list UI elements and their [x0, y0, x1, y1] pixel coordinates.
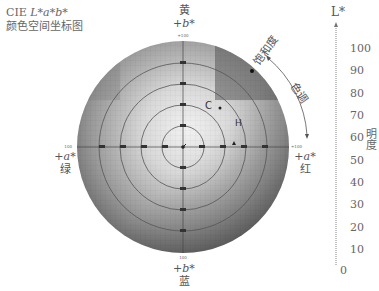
l-tick-30: 30 — [350, 198, 364, 211]
l-tick-0: 0 — [340, 264, 347, 277]
l-tick-80: 80 — [350, 87, 364, 100]
l-tick-90: 90 — [350, 64, 364, 77]
l-tick-50: 50 — [350, 154, 364, 167]
chroma-point — [219, 107, 222, 110]
saturation-point — [250, 69, 254, 73]
l-tick-70: 70 — [350, 109, 364, 122]
chroma-marker: C — [205, 100, 212, 111]
tick-bottom: 100 — [179, 255, 187, 260]
tick-left: 100 — [64, 144, 72, 149]
lightness-label: 明度 — [362, 128, 378, 150]
l-tick-40: 40 — [350, 176, 364, 189]
saturation-label: 饱和度 — [250, 33, 280, 68]
l-tick-20: 20 — [350, 221, 364, 234]
lab-color-wheel: +100 100 100 +100 C H 饱和度 色调 — [0, 0, 379, 291]
lightness-scale: 100 90 80 70 60 50 40 30 20 10 0 — [336, 26, 376, 276]
tick-top: +100 — [178, 33, 189, 38]
l-tick-100: 100 — [350, 42, 371, 55]
hue-label: 色调 — [288, 80, 312, 106]
hue-marker: H — [235, 118, 242, 128]
lightness-scale-title: L* — [328, 6, 348, 19]
l-tick-10: 10 — [350, 243, 364, 256]
tick-right: +100 — [291, 144, 302, 149]
arrow-down-icon — [305, 134, 309, 139]
